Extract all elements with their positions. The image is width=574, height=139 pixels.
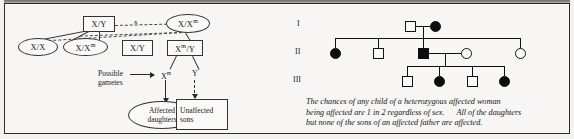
possible-gametes-label: Possible gametes — [98, 69, 123, 87]
pedigree-sib-drop-II-2 — [378, 38, 379, 48]
pedigree-descent-I — [423, 26, 424, 38]
pedigree-sib-drop-III-3 — [472, 66, 473, 76]
offspring-son-affected-genotype: Xm/Y — [175, 43, 195, 54]
mating-line — [115, 24, 167, 26]
pedigree-II-1-female-affected — [330, 48, 341, 59]
generation-label-III: III — [293, 75, 301, 84]
outcome-unaffected-line2: sons — [180, 115, 193, 124]
pedigree-caption: The chances of any child of a heterozygo… — [306, 97, 564, 129]
offspring-son-unaffected-node: X/Y — [122, 40, 153, 56]
gamete-split-line-left — [170, 56, 177, 70]
offspring-daughter-affected-genotype: X/Xm — [75, 42, 95, 53]
cross-diagram-panel: X/Y x X/Xm X/X X/Xm X/Y Xm/Y — [6, 5, 281, 133]
caption-line-3: but none of the sons of an affected fath… — [306, 118, 482, 127]
pedigree-sib-drop-III-4 — [504, 66, 505, 76]
pedigree-sib-drop-III-2 — [439, 66, 440, 76]
pedigree-sibship-bar-III — [407, 66, 504, 67]
parent-mother-genotype: X/Xm — [178, 18, 198, 29]
pedigree-III-1-male-unaffected — [402, 76, 413, 87]
caption-line-2b: All of the daughters — [456, 108, 521, 117]
parent-father-genotype: X/Y — [91, 19, 106, 29]
arrow-to-affected-daughters-icon — [165, 80, 166, 102]
parent-father-node: X/Y — [83, 16, 115, 32]
pedigree-descent-II — [445, 53, 446, 66]
pedigree-II-3-male-affected — [418, 48, 429, 59]
figure-page: X/Y x X/Xm X/X X/Xm X/Y Xm/Y — [0, 0, 574, 139]
generation-label-I: I — [297, 19, 300, 28]
offspring-son-unaffected-genotype: X/Y — [130, 43, 145, 53]
pedigree-III-4-female-affected — [499, 76, 510, 87]
offspring-son-affected-node: Xm/Y — [167, 40, 203, 56]
gametes-arrow-icon — [130, 74, 154, 75]
outcome-unaffected-sons-node: Unaffected sons — [176, 99, 228, 130]
pedigree-sib-drop-III-1 — [407, 66, 408, 76]
pedigree-II-2-male-unaffected — [373, 48, 384, 59]
pedigree-I-1-male-unaffected — [405, 21, 416, 32]
caption-line-1: The chances of any child of a heterozygo… — [306, 97, 501, 106]
pedigree-I-2-female-affected — [430, 21, 441, 32]
outcome-unaffected-line1: Unaffected — [180, 106, 213, 115]
outcome-affected-line2: daughters — [147, 115, 176, 124]
pedigree-sibship-bar-II — [335, 38, 520, 39]
cross-symbol: x — [134, 18, 138, 27]
offspring-daughter-affected-node: X/Xm — [63, 38, 108, 56]
gametes-label-line1: Possible — [98, 69, 123, 78]
offspring-daughter-unaffected-node: X/X — [18, 38, 58, 56]
gamete-y-label: Y — [192, 69, 198, 78]
pedigree-panel: I II III Th — [287, 5, 570, 133]
gamete-split-line-right — [192, 56, 199, 70]
gametes-label-line2: gametes — [98, 78, 123, 87]
parent-mother-node: X/Xm — [166, 14, 210, 33]
pedigree-III-3-male-unaffected — [467, 76, 478, 87]
pedigree-sib-drop-II-1 — [335, 38, 336, 48]
pedigree-sib-drop-II-3 — [423, 38, 424, 48]
outcome-affected-line1: Affected — [149, 106, 175, 115]
pedigree-sib-drop-II-5 — [520, 38, 521, 48]
pedigree-II-4-female-unaffected — [461, 48, 472, 59]
pedigree-III-2-female-affected — [434, 76, 445, 87]
generation-label-II: II — [295, 47, 300, 56]
offspring-daughter-unaffected-genotype: X/X — [30, 42, 45, 52]
arrow-to-unaffected-sons-icon — [194, 80, 195, 98]
pedigree-II-5-female-unaffected — [515, 48, 526, 59]
gamete-xm-label: Xm — [161, 69, 171, 81]
caption-line-2a: being affected are 1 in 2 regardless of … — [306, 108, 444, 117]
